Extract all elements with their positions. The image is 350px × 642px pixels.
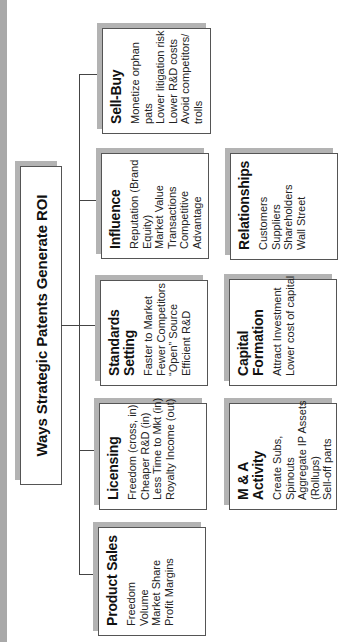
box-heading-line: Setting bbox=[121, 330, 137, 376]
box-item: Market Value bbox=[153, 161, 166, 249]
box-item: Lower cost of capital bbox=[284, 287, 297, 376]
box-item: Equity) bbox=[141, 161, 154, 249]
box-item: Faster to Market bbox=[142, 288, 155, 376]
branch-licensing bbox=[79, 450, 100, 451]
box-item: Suppliers bbox=[270, 161, 283, 250]
box-item: Freedom (cross, in) bbox=[126, 411, 139, 500]
branch-sell-buy bbox=[79, 74, 102, 75]
box-item: Lower R&D costs bbox=[167, 36, 180, 124]
box-item: Royalty Income (out) bbox=[164, 411, 177, 500]
branch-influence bbox=[79, 200, 101, 201]
box-m-and-a-activity: M & A Activity Create Subs, Spinouts Agg… bbox=[229, 403, 337, 510]
diagram-title-box: Ways Strategic Patents Generate ROI bbox=[20, 166, 62, 485]
box-item: Freedom bbox=[125, 535, 138, 626]
box-heading: M & A Activity bbox=[236, 411, 266, 500]
box-capital-formation: Capital Formation Attract Investment Low… bbox=[229, 279, 337, 386]
box-item: (Rollups) bbox=[309, 411, 322, 500]
box-item: Aggregate IP Assets bbox=[296, 411, 309, 500]
box-item: Attract Investment bbox=[271, 287, 284, 376]
box-item: Profit Margins bbox=[163, 535, 176, 626]
box-item: Advantage bbox=[191, 161, 204, 249]
box-sell-buy: Sell-Buy Monetize orphan pats Lower liti… bbox=[102, 28, 211, 134]
box-item: Shareholders bbox=[282, 161, 295, 250]
box-heading: Capital Formation bbox=[236, 287, 266, 376]
box-item: Create Subs, bbox=[271, 411, 284, 500]
box-heading-line: Capital bbox=[235, 331, 251, 376]
page-edge-strip bbox=[0, 0, 7, 642]
box-heading: Sell-Buy bbox=[109, 36, 124, 124]
diagram-canvas: Ways Strategic Patents Generate ROI Prod… bbox=[0, 0, 350, 642]
box-product-sales: Product Sales Freedom Volume Market Shar… bbox=[98, 527, 206, 636]
box-item: Customers bbox=[257, 161, 270, 250]
box-item: Monetize orphan bbox=[129, 36, 142, 124]
box-relationships: Relationships Customers Suppliers Shareh… bbox=[230, 153, 338, 260]
branch-product-sales bbox=[79, 574, 99, 575]
box-licensing: Licensing Freedom (cross, in) Cheaper R&… bbox=[99, 403, 207, 510]
box-item: Reputation (Brand bbox=[128, 161, 141, 249]
box-item: Lower litigation risk bbox=[154, 36, 167, 124]
box-item: trolls bbox=[192, 36, 205, 124]
box-heading: Licensing bbox=[106, 411, 121, 500]
box-item: pats bbox=[142, 36, 155, 124]
box-item: Cheaper R&D (in) bbox=[139, 411, 152, 500]
box-heading: Standards Setting bbox=[107, 288, 137, 376]
box-item: Market Share bbox=[150, 535, 163, 626]
box-item: Avoid competitors/ bbox=[179, 36, 192, 124]
box-heading-line: Standards bbox=[106, 309, 122, 376]
box-item: Volume bbox=[138, 535, 151, 626]
box-item: “Open” Source bbox=[167, 288, 180, 376]
box-item: Spinouts bbox=[284, 411, 297, 500]
box-item: Efficient R&D bbox=[180, 288, 193, 376]
diagram-frame: Ways Strategic Patents Generate ROI Prod… bbox=[0, 0, 350, 642]
diagram-title: Ways Strategic Patents Generate ROI bbox=[33, 195, 50, 457]
box-item: Wall Street bbox=[295, 161, 308, 250]
box-item: Sell-off parts bbox=[321, 411, 334, 500]
box-item: Transactions bbox=[166, 161, 179, 249]
box-heading: Influence bbox=[108, 161, 123, 249]
box-item: Competitive bbox=[178, 161, 191, 249]
box-influence: Influence Reputation (Brand Equity) Mark… bbox=[101, 153, 209, 259]
box-item: Fewer Competitors bbox=[155, 288, 168, 376]
box-heading: Product Sales bbox=[105, 535, 120, 626]
box-heading-line: Formation bbox=[250, 309, 266, 376]
branch-standards-setting bbox=[79, 325, 100, 326]
box-heading: Relationships bbox=[237, 161, 252, 250]
box-standards-setting: Standards Setting Faster to Market Fewer… bbox=[100, 280, 208, 386]
box-item: Less Time to Mkt (in) bbox=[151, 411, 164, 500]
